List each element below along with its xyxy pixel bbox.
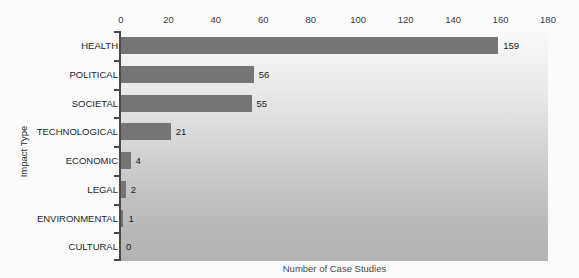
x-axis-tick-labels: 0 20 40 60 80 100 120 140 160 180 (121, 14, 548, 28)
x-tick-label: 20 (163, 14, 174, 26)
bar-value-label: 1 (123, 210, 133, 227)
x-tick-label: 140 (445, 14, 461, 26)
bar-value-label: 2 (126, 181, 136, 198)
bar-row: 4 (121, 146, 548, 175)
bar-value-label: 56 (254, 66, 270, 83)
bar-row: 55 (121, 89, 548, 118)
y-axis-title: Impact Type (18, 117, 29, 187)
x-tick-label: 0 (118, 14, 123, 26)
category-label-societal: SOCIETAL (6, 98, 118, 110)
x-tick-label: 180 (540, 14, 556, 26)
bar-row: 2 (121, 175, 548, 204)
x-tick-label: 160 (493, 14, 509, 26)
category-label-health: HEALTH (6, 40, 118, 52)
x-tick-label: 40 (211, 14, 222, 26)
bar-row: 159 (121, 31, 548, 60)
category-label-political: POLITICAL (6, 69, 118, 81)
x-tick-label: 120 (398, 14, 414, 26)
bar-economic (121, 152, 131, 169)
bar-chart: 0 20 40 60 80 100 120 140 160 180 159 56… (0, 0, 579, 278)
bar-technological (121, 123, 171, 140)
bar-health (121, 37, 498, 54)
category-label-environmental: ENVIRONMENTAL (6, 213, 118, 225)
x-tick-label: 100 (350, 14, 366, 26)
plot-area: 159 56 55 21 4 2 1 0 (121, 31, 548, 261)
x-axis-title: Number of Case Studies (121, 263, 548, 274)
bar-row: 21 (121, 117, 548, 146)
x-tick-label: 80 (305, 14, 316, 26)
bar-row: 56 (121, 60, 548, 89)
bar-societal (121, 95, 252, 112)
bar-value-label: 21 (171, 123, 187, 140)
x-tick-label: 60 (258, 14, 269, 26)
bar-row: 0 (121, 232, 548, 261)
bar-value-label: 159 (498, 37, 519, 54)
bar-value-label: 4 (131, 152, 141, 169)
bar-row: 1 (121, 204, 548, 233)
category-label-cultural: CULTURAL (6, 241, 118, 253)
bar-value-label: 55 (252, 95, 268, 112)
bar-political (121, 66, 254, 83)
bar-value-label: 0 (121, 238, 131, 255)
